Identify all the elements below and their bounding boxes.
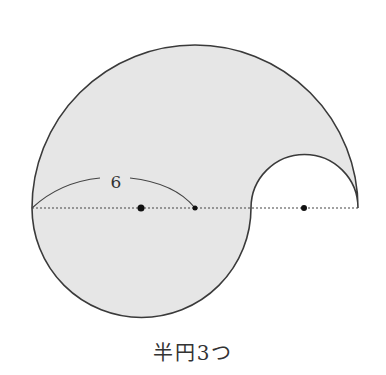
semicircle-figure: 6	[0, 0, 386, 375]
length-label: 6	[111, 172, 122, 192]
caption: 半円3つ	[0, 337, 386, 366]
center-dot-small	[301, 205, 307, 211]
center-dot-large	[193, 206, 198, 211]
center-dot-lower	[138, 205, 145, 212]
